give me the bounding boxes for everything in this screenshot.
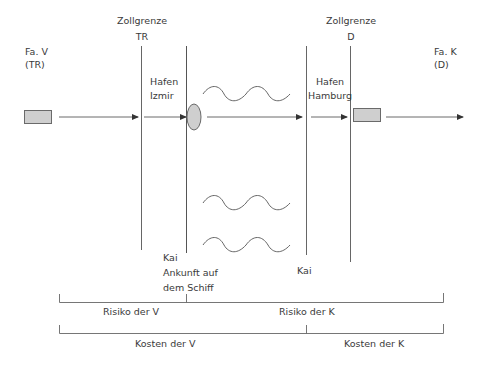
buyer-name: Fa. K xyxy=(434,45,457,58)
seller-label: Fa. V (TR) xyxy=(25,45,48,71)
border-label-tr: Zollgrenze TR xyxy=(117,13,167,45)
cost-buyer-label: Kosten der K xyxy=(344,337,404,350)
buyer-box xyxy=(354,109,381,122)
port-hamburg-line1: Hafen xyxy=(308,75,352,89)
seller-name: Fa. V xyxy=(25,45,48,58)
quay-izmir-line1: Kai xyxy=(163,250,218,265)
port-izmir-line1: Hafen xyxy=(150,75,178,89)
border-d-code: D xyxy=(326,29,376,45)
seller-country: (TR) xyxy=(25,58,48,71)
quay-izmir-line3: dem Schiff xyxy=(163,280,218,295)
buyer-country: (D) xyxy=(434,58,457,71)
diagram-canvas: Fa. V (TR) Zollgrenze TR Hafen Izmir Zol… xyxy=(0,0,482,365)
buyer-label: Fa. K (D) xyxy=(434,45,457,71)
port-label-hamburg: Hafen Hamburg xyxy=(308,75,352,103)
ship-icon xyxy=(187,104,201,130)
risk-buyer-label: Risiko der K xyxy=(279,305,335,318)
wave-icon-top xyxy=(203,87,290,101)
risk-seller-label: Risiko der V xyxy=(103,305,159,318)
cost-seller-label: Kosten der V xyxy=(135,337,195,350)
risk-bracket xyxy=(60,293,444,303)
wave-icon-middle xyxy=(203,196,290,210)
port-hamburg-line2: Hamburg xyxy=(308,89,352,103)
port-label-izmir: Hafen Izmir xyxy=(150,75,178,103)
diagram-graphics xyxy=(0,0,482,365)
port-izmir-line2: Izmir xyxy=(150,89,178,103)
quay-label-izmir: Kai Ankunft auf dem Schiff xyxy=(163,250,218,295)
quay-label-hamburg: Kai xyxy=(297,264,312,277)
seller-box xyxy=(25,111,52,124)
border-tr-code: TR xyxy=(117,29,167,45)
quay-izmir-line2: Ankunft auf xyxy=(163,265,218,280)
cost-bracket xyxy=(60,324,444,334)
border-label-d: Zollgrenze D xyxy=(326,13,376,45)
border-tr-title: Zollgrenze xyxy=(117,13,167,29)
border-d-title: Zollgrenze xyxy=(326,13,376,29)
